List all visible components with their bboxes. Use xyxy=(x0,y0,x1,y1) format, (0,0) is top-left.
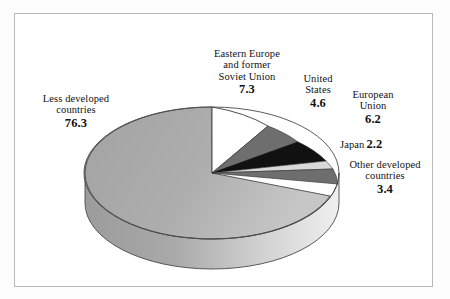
label-eastern-europe-line2: and former xyxy=(223,59,270,70)
label-japan: Japan2.2 xyxy=(340,138,440,152)
label-united-states-line1: United xyxy=(303,73,332,84)
label-less-developed-value: 76.3 xyxy=(16,117,136,131)
label-european-union: European Union 6.2 xyxy=(338,89,408,126)
label-united-states-line2: States xyxy=(305,84,331,95)
label-european-union-value: 6.2 xyxy=(338,113,408,127)
label-other-developed-line1: Other developed xyxy=(349,159,420,170)
label-european-union-line2: Union xyxy=(360,100,387,111)
label-japan-line1: Japan xyxy=(340,139,364,150)
label-less-developed: Less developed countries 76.3 xyxy=(16,93,136,130)
label-other-developed-line2: countries xyxy=(365,170,404,181)
label-other-developed: Other developed countries 3.4 xyxy=(330,159,440,196)
label-less-developed-line2: countries xyxy=(56,104,95,115)
label-eastern-europe-line3: Soviet Union xyxy=(219,71,276,82)
label-other-developed-value: 3.4 xyxy=(330,183,440,197)
label-japan-value: 2.2 xyxy=(366,137,382,151)
figure-canvas: Eastern Europe and former Soviet Union 7… xyxy=(0,0,450,299)
label-less-developed-line1: Less developed xyxy=(43,93,109,104)
label-european-union-line1: European xyxy=(352,89,393,100)
label-eastern-europe-line1: Eastern Europe xyxy=(214,48,280,59)
